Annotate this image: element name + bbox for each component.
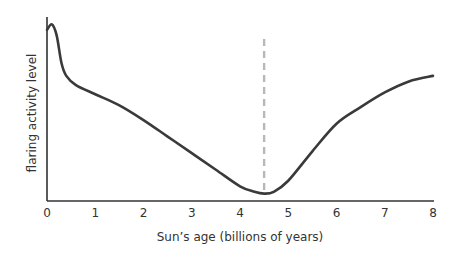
x-tick-label: 6: [333, 206, 341, 220]
x-tick-labels: 012345678: [43, 206, 437, 220]
x-axis-label: Sun’s age (billions of years): [157, 230, 324, 244]
x-tick-label: 8: [429, 206, 437, 220]
x-tick-label: 1: [91, 206, 99, 220]
x-tick-label: 3: [188, 206, 196, 220]
flaring-activity-curve: [47, 24, 433, 193]
chart: 012345678 Sun’s age (billions of years) …: [0, 0, 457, 254]
y-axis-label: flaring activity level: [25, 54, 39, 173]
x-tick-label: 7: [381, 206, 389, 220]
x-tick-label: 2: [140, 206, 148, 220]
x-tick-label: 5: [284, 206, 292, 220]
x-tick-label: 4: [236, 206, 244, 220]
x-tick-label: 0: [43, 206, 51, 220]
